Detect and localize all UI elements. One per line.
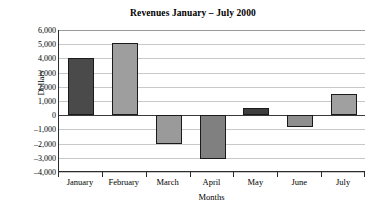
- bar-july: [331, 94, 357, 115]
- y-tick-label: 6,000: [4, 26, 56, 35]
- y-tick-label: 2,000: [4, 82, 56, 91]
- plot-area: [58, 30, 365, 172]
- x-tick-label-january: January: [58, 177, 102, 187]
- y-tick-label: 4,000: [4, 54, 56, 63]
- y-tick-label: 3,000: [4, 68, 56, 77]
- bar-may: [243, 108, 269, 115]
- x-axis-title: Months: [58, 192, 365, 202]
- x-tick-label-february: February: [102, 177, 146, 187]
- bar-june: [287, 115, 313, 126]
- x-tick-label-april: April: [190, 177, 234, 187]
- y-axis-tick-labels: 6,0005,0004,0003,0002,0001,0000–1,000–2,…: [0, 30, 56, 172]
- y-tick-label: 0: [4, 111, 56, 120]
- y-tick-label: –4,000: [4, 168, 56, 177]
- x-tick-label-june: June: [277, 177, 321, 187]
- y-tick-label: –2,000: [4, 139, 56, 148]
- x-tick-label-july: July: [321, 177, 365, 187]
- bar-april: [200, 115, 226, 159]
- y-tick-label: 1,000: [4, 97, 56, 106]
- x-tick-label-march: March: [146, 177, 190, 187]
- revenues-bar-chart: Revenues January – July 2000 Dollars 6,0…: [0, 0, 386, 216]
- y-tick-label: –1,000: [4, 125, 56, 134]
- chart-title: Revenues January – July 2000: [0, 8, 386, 18]
- y-tick-label: –3,000: [4, 153, 56, 162]
- x-tick-label-may: May: [233, 177, 277, 187]
- bar-february: [112, 43, 138, 115]
- bar-january: [68, 58, 94, 115]
- y-tick-label: 5,000: [4, 40, 56, 49]
- bar-series: [59, 30, 365, 171]
- bar-march: [156, 115, 182, 143]
- x-axis-tick-labels: JanuaryFebruaryMarchAprilMayJuneJuly: [58, 177, 365, 191]
